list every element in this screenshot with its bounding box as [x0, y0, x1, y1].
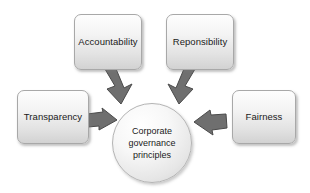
- node-fairness-label: Fairness: [246, 112, 283, 123]
- node-accountability-label: Accountability: [78, 37, 137, 48]
- center-label-line-1: Corporate: [132, 125, 172, 137]
- node-transparency-label: Transparency: [24, 112, 82, 123]
- arrow-fairness-to-center: [192, 106, 228, 136]
- node-fairness: Fairness: [232, 90, 296, 144]
- node-responsibility: Reponsibility: [166, 14, 234, 70]
- center-label-line-2: governance: [128, 137, 175, 149]
- diagram-canvas: Accountability Reponsibility Transparenc…: [0, 0, 310, 193]
- node-corporate-governance-principles: Corporate governance principles: [112, 103, 192, 183]
- node-accountability: Accountability: [74, 14, 142, 70]
- center-label-line-3: principles: [133, 149, 171, 161]
- node-responsibility-label: Reponsibility: [173, 37, 228, 48]
- node-transparency: Transparency: [17, 90, 89, 144]
